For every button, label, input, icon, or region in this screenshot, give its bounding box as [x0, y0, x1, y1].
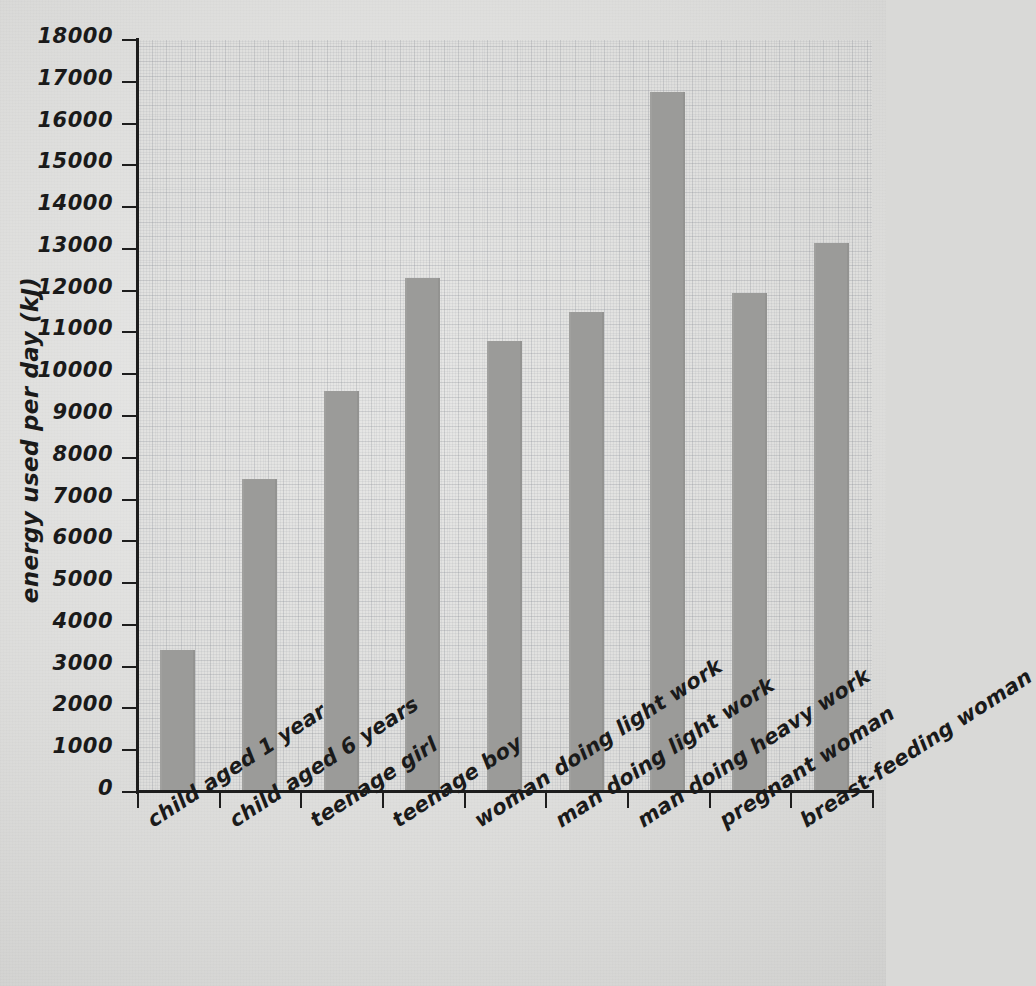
y-axis-tick-mark: [122, 666, 136, 668]
x-axis-tick-mark: [137, 792, 139, 808]
bar: [569, 312, 604, 792]
y-axis-tick-label: 3000: [53, 651, 113, 675]
x-axis-tick-mark: [709, 792, 711, 808]
y-axis-tick-mark: [122, 624, 136, 626]
y-axis-tick-mark: [122, 331, 136, 333]
bar: [160, 650, 195, 792]
y-axis-tick-label: 6000: [53, 525, 113, 549]
y-axis-title: energy used per day (kJ): [10, 230, 50, 650]
y-axis-tick-mark: [122, 164, 136, 166]
y-axis-tick-label: 0: [98, 776, 113, 800]
x-axis-tick-mark: [790, 792, 792, 808]
y-axis-tick-mark: [122, 290, 136, 292]
y-axis-tick-mark: [122, 791, 136, 793]
y-axis-tick-mark: [122, 540, 136, 542]
y-axis-tick-mark: [122, 582, 136, 584]
y-axis-tick-mark: [122, 206, 136, 208]
x-axis-tick-mark: [464, 792, 466, 808]
y-axis-title-label: energy used per day (kJ): [17, 277, 43, 603]
y-axis-tick-mark: [122, 415, 136, 417]
x-axis-tick-mark: [627, 792, 629, 808]
y-axis-tick-label: 17000: [37, 66, 113, 90]
y-axis-tick-mark: [122, 248, 136, 250]
y-axis-tick-mark: [122, 123, 136, 125]
y-axis-line: [136, 38, 139, 794]
x-axis-tick-mark: [545, 792, 547, 808]
y-axis-tick-mark: [122, 749, 136, 751]
y-axis-tick-label: 1000: [53, 734, 113, 758]
y-axis-tick-label: 4000: [53, 609, 113, 633]
y-axis-tick-label: 5000: [53, 567, 113, 591]
y-axis-tick-label: 14000: [37, 191, 113, 215]
x-axis-tick-mark: [382, 792, 384, 808]
bar: [487, 341, 522, 792]
y-axis-tick-mark: [122, 81, 136, 83]
y-axis-tick-label: 18000: [37, 24, 113, 48]
y-axis-tick-label: 2000: [53, 692, 113, 716]
y-axis-tick-mark: [122, 373, 136, 375]
y-axis-tick-label: 16000: [37, 108, 113, 132]
x-axis-tick-mark: [219, 792, 221, 808]
x-axis-tick-mark: [872, 792, 874, 808]
y-axis-tick-mark: [122, 499, 136, 501]
y-axis-tick-label: 9000: [53, 400, 113, 424]
y-axis-tick-mark: [122, 457, 136, 459]
y-axis-tick-mark: [122, 707, 136, 709]
y-axis-tick-label: 15000: [37, 149, 113, 173]
y-axis-tick-label: 8000: [53, 442, 113, 466]
x-axis-tick-mark: [300, 792, 302, 808]
y-axis-tick-mark: [122, 39, 136, 41]
y-axis-tick-label: 7000: [53, 484, 113, 508]
